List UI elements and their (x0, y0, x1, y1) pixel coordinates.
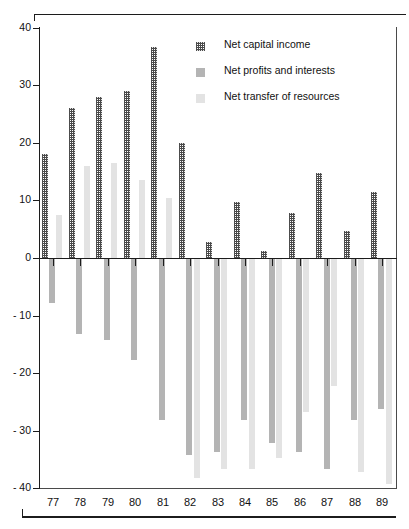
bar-profits-78 (76, 259, 82, 334)
x-tick-79 (108, 259, 109, 266)
bar-transfer-87 (331, 259, 337, 386)
x-tick-88 (355, 259, 356, 266)
bar-transfer-89 (386, 259, 392, 484)
bar-capital-81 (151, 47, 157, 258)
x-tick-label-80: 80 (123, 496, 147, 508)
y-tick-label: - 40 (1, 482, 31, 492)
bar-capital-78 (69, 108, 75, 258)
bar-transfer-88 (358, 259, 364, 472)
y-tick-neg20 (33, 373, 40, 374)
y-tick-30 (33, 85, 40, 86)
medium-grey-swatch (196, 68, 205, 77)
bar-profits-89 (378, 259, 384, 409)
x-tick-87 (327, 259, 328, 266)
x-tick-label-89: 89 (370, 496, 394, 508)
bar-capital-85 (261, 251, 267, 258)
x-tick-77 (53, 259, 54, 266)
x-tick-78 (80, 259, 81, 266)
x-tick-label-77: 77 (41, 496, 65, 508)
x-tick-label-88: 88 (343, 496, 367, 508)
bar-profits-82 (186, 259, 192, 455)
y-tick-40 (33, 28, 40, 29)
light-grey-swatch (196, 94, 205, 103)
y-tick-neg30 (33, 431, 40, 432)
y-tick-0 (33, 258, 40, 259)
x-tick-label-82: 82 (178, 496, 202, 508)
top-rule (34, 14, 406, 15)
x-tick-89 (382, 259, 383, 266)
bar-transfer-82 (194, 259, 200, 478)
legend-item-transfer[interactable]: Net transfer of resources (196, 90, 386, 116)
x-tick-label-85: 85 (260, 496, 284, 508)
x-tick-label-84: 84 (233, 496, 257, 508)
x-tick-84 (245, 259, 246, 266)
top-rule-end-tick (34, 14, 35, 21)
y-tick-neg40 (33, 488, 40, 489)
dark-hatched-swatch (196, 42, 205, 51)
y-tick-label: 40 (1, 22, 31, 32)
y-tick-label: 10 (1, 194, 31, 204)
top-caption (120, 0, 340, 8)
bar-profits-79 (104, 259, 110, 340)
bar-profits-88 (351, 259, 357, 420)
bar-profits-86 (296, 259, 302, 452)
bar-transfer-84 (249, 259, 255, 469)
x-tick-85 (272, 259, 273, 266)
bar-capital-79 (96, 97, 102, 258)
legend-label-transfer: Net transfer of resources (224, 90, 340, 102)
bar-capital-77 (42, 154, 48, 258)
y-tick-label: 20 (1, 137, 31, 147)
x-tick-81 (163, 259, 164, 266)
x-tick-86 (300, 259, 301, 266)
y-tick-label: - 10 (1, 310, 31, 320)
bar-profits-87 (324, 259, 330, 469)
x-tick-label-83: 83 (206, 496, 230, 508)
x-tick-80 (135, 259, 136, 266)
plot-bottom-border (39, 488, 397, 489)
bar-transfer-83 (221, 259, 227, 469)
chart-legend: Net capital incomeNet profits and intere… (196, 38, 386, 116)
bar-capital-84 (234, 202, 240, 258)
x-tick-label-86: 86 (288, 496, 312, 508)
x-tick-label-87: 87 (315, 496, 339, 508)
bar-capital-86 (289, 213, 295, 258)
y-tick-label: - 30 (1, 425, 31, 435)
y-tick-20 (33, 143, 40, 144)
bar-capital-88 (344, 231, 350, 258)
bar-transfer-77 (56, 215, 62, 258)
bar-profits-83 (214, 259, 220, 452)
x-tick-label-81: 81 (151, 496, 175, 508)
legend-label-profits: Net profits and interests (224, 64, 335, 76)
legend-item-capital[interactable]: Net capital income (196, 38, 386, 64)
bar-profits-81 (159, 259, 165, 420)
y-axis-labels: 403020100- 10- 20- 30- 40 (0, 0, 31, 529)
y-tick-label: 0 (1, 252, 31, 262)
bar-profits-84 (241, 259, 247, 420)
bar-transfer-85 (276, 259, 282, 458)
bar-transfer-78 (84, 166, 90, 258)
bar-capital-83 (206, 242, 212, 258)
bar-profits-80 (131, 259, 137, 360)
bar-transfer-80 (139, 180, 145, 258)
bar-transfer-86 (303, 259, 309, 412)
bar-transfer-79 (111, 163, 117, 258)
bar-capital-80 (124, 91, 130, 258)
bar-capital-87 (316, 173, 322, 258)
x-axis-bottom-rule (22, 516, 396, 518)
bar-capital-89 (371, 192, 377, 258)
bar-transfer-81 (166, 198, 172, 258)
y-tick-10 (33, 200, 40, 201)
x-tick-label-78: 78 (68, 496, 92, 508)
x-tick-82 (190, 259, 191, 266)
legend-item-profits[interactable]: Net profits and interests (196, 64, 386, 90)
x-tick-83 (218, 259, 219, 266)
legend-label-capital: Net capital income (224, 38, 310, 50)
bar-capital-82 (179, 143, 185, 258)
x-tick-label-79: 79 (96, 496, 120, 508)
bar-profits-85 (269, 259, 275, 443)
y-tick-label: 30 (1, 79, 31, 89)
y-tick-neg10 (33, 316, 40, 317)
y-tick-label: - 20 (1, 367, 31, 377)
